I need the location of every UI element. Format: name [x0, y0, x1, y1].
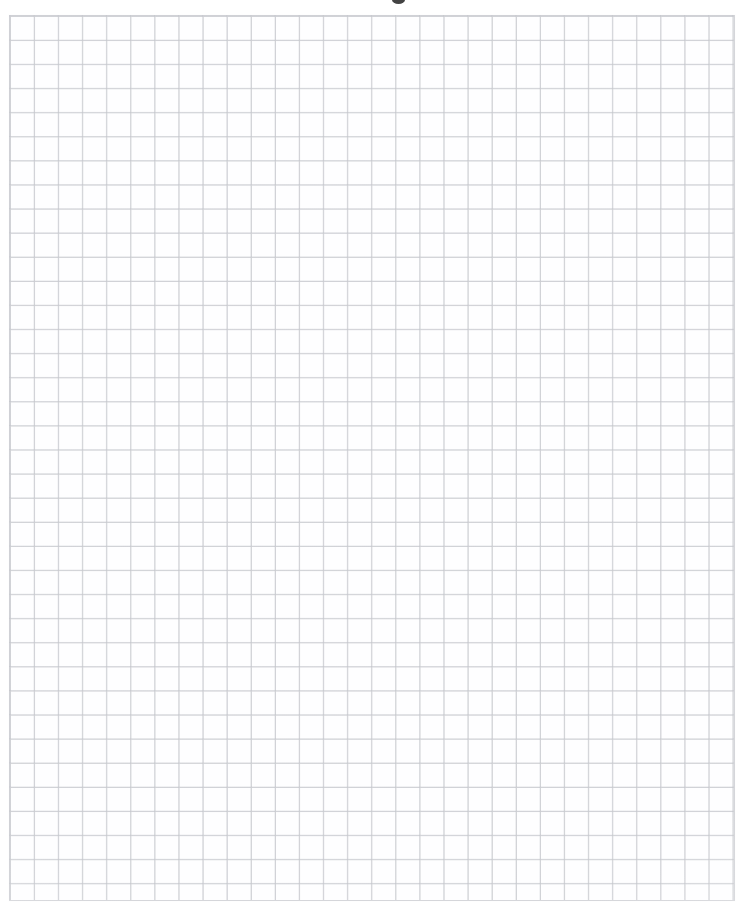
graph-paper-grid [9, 15, 735, 901]
grid-bottom-edge-rule [9, 900, 735, 901]
graph-paper-page [0, 0, 748, 909]
grid-right-edge-rule [734, 15, 735, 901]
